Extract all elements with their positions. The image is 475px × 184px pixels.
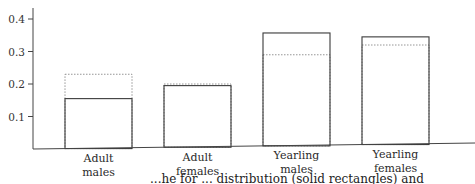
figure-caption-fragment: ...he for ... distribution (solid rectan… bbox=[150, 172, 424, 184]
category-label: Yearling bbox=[372, 148, 419, 161]
category-label: males bbox=[82, 166, 115, 179]
bars bbox=[65, 33, 429, 149]
caption-text: ...he for ... distribution (solid rectan… bbox=[150, 172, 424, 184]
y-tick-label: 0.2 bbox=[8, 78, 25, 90]
bar-solid bbox=[65, 99, 132, 149]
y-tick-label: 0.1 bbox=[8, 111, 25, 123]
bar-dotted bbox=[164, 84, 231, 147]
bar-dotted bbox=[362, 45, 429, 145]
y-tick-label: 0.4 bbox=[8, 13, 25, 25]
y-axis: 0.10.20.30.4 bbox=[8, 13, 33, 123]
bar-chart: 0.10.20.30.4 AdultmalesAdultfemalesYearl… bbox=[0, 0, 475, 184]
category-label: Yearling bbox=[273, 149, 320, 162]
bar-dotted bbox=[65, 74, 132, 148]
bar-solid bbox=[164, 86, 231, 148]
bar-solid bbox=[362, 37, 429, 145]
bar-solid bbox=[263, 33, 330, 146]
category-label: Adult bbox=[181, 151, 213, 164]
y-tick-label: 0.3 bbox=[8, 46, 25, 58]
bar-dotted bbox=[263, 55, 330, 146]
category-label: Adult bbox=[82, 152, 114, 165]
